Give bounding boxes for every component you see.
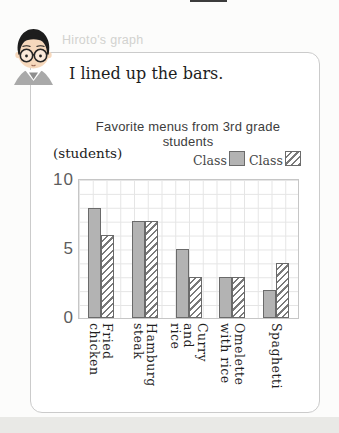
bar-class1-cat2 (176, 249, 189, 318)
hiroto-avatar (11, 26, 56, 85)
bar-class2-cat0 (101, 235, 114, 318)
bar-class1-cat1 (132, 221, 145, 318)
bar-class1-cat4 (263, 290, 276, 318)
category-label: Spaghetti (269, 323, 283, 389)
category-label: Hamburg steak (131, 323, 158, 387)
bar-class2-cat4 (276, 263, 289, 318)
persona-name: Hiroto's graph (62, 33, 144, 47)
bar-class1-cat0 (88, 208, 101, 318)
y-tick-0: 0 (43, 308, 74, 327)
page-bottom-strip (0, 417, 339, 433)
category-label: Omelette with rice (219, 323, 246, 385)
bar-class2-cat3 (232, 277, 245, 318)
bar-class2-cat2 (189, 277, 202, 318)
speech-text: I lined up the bars. (69, 64, 223, 83)
cutoff-content-sliver (190, 0, 227, 2)
bar-plot: Fried chickenHamburg steakCurry and rice… (78, 179, 299, 319)
category-label: Curry and rice (168, 323, 209, 362)
y-tick-5: 5 (43, 239, 74, 258)
legend-swatch-class2 (285, 151, 301, 166)
bar-class2-cat1 (145, 221, 158, 318)
speech-card: I lined up the bars. Favorite menus from… (30, 52, 320, 413)
legend-swatch-class1 (229, 151, 245, 166)
y-axis-ticks: 1050 (43, 179, 74, 318)
bar-class1-cat3 (219, 277, 232, 318)
avatar-body (14, 70, 53, 85)
chart-legend: Class 1 Class 2 (31, 151, 313, 169)
avatar-head (15, 29, 51, 69)
category-label: Fried chicken (87, 323, 114, 376)
y-tick-10: 10 (43, 170, 74, 189)
